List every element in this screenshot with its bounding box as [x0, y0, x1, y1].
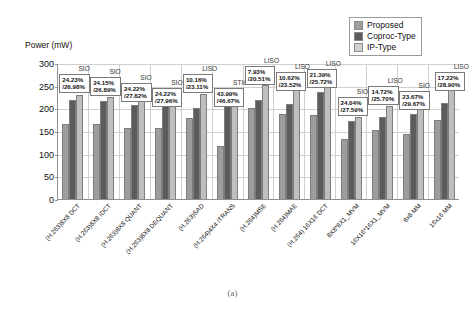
annotation-architecture-type: SIO [78, 65, 89, 72]
annotation-reduction-vs-ip: /26.89% [93, 86, 118, 93]
annotation-callout: 24.23%/26.98% [59, 74, 90, 93]
annotation-reduction-vs-coproc: 21.39% [310, 71, 335, 78]
legend-swatch-ip-type [354, 43, 363, 52]
annotation-architecture-type: LISO [326, 60, 341, 67]
annotation-callout: 14.72%/25.70% [368, 86, 399, 105]
bar-proposed [62, 124, 69, 199]
annotation-reduction-vs-ip: /29.67% [402, 100, 427, 107]
bar-ip-type [355, 117, 362, 199]
annotation-reduction-vs-coproc: 24.22% [155, 90, 180, 97]
bar-coproc-type [348, 121, 355, 199]
bar-ip-type [169, 101, 176, 199]
annotation-reduction-vs-coproc: 24.23% [62, 76, 87, 83]
bar-coproc-type [193, 108, 200, 199]
y-axis-tick-label: 50 [44, 172, 54, 182]
bar-ip-type [293, 89, 300, 199]
annotation-callout: 7.93%/20.51% [245, 66, 276, 85]
bar-ip-type [448, 89, 455, 199]
y-axis-tick-label: 250 [39, 82, 54, 92]
bar-ip-type [231, 102, 238, 199]
annotation-reduction-vs-coproc: 43.99% [217, 90, 242, 97]
annotation-reduction-vs-coproc: 24.15% [93, 79, 118, 86]
annotation-reduction-vs-coproc: 23.67% [402, 93, 427, 100]
legend-swatch-coproc-type [354, 32, 363, 41]
annotation-reduction-vs-ip: /23.11% [186, 83, 211, 90]
annotation-architecture-type: SIO [171, 79, 182, 86]
bar-ip-type [200, 94, 207, 199]
legend-label-proposed: Proposed [367, 21, 403, 30]
annotation-architecture-type: LISO [454, 63, 469, 70]
legend-entry-coproc-type: Coproc-Type [354, 32, 416, 41]
annotation-callout: 17.22%/28.90% [435, 72, 466, 91]
annotation-reduction-vs-ip: /26.98% [62, 83, 87, 90]
y-axis-title: Power (mW) [25, 40, 72, 50]
bar-coproc-type [379, 117, 386, 199]
legend-label-coproc-type: Coproc-Type [367, 32, 416, 41]
figure-caption: (a) [0, 288, 465, 298]
chart-legend: Proposed Coproc-Type IP-Type [349, 17, 422, 56]
bar-ip-type [262, 85, 269, 199]
y-axis-tick-label: 300 [39, 59, 54, 69]
annotation-reduction-vs-coproc: 17.22% [438, 74, 463, 81]
annotation-reduction-vs-ip: /27.82% [124, 92, 149, 99]
y-axis-tick-mark [55, 200, 58, 201]
annotation-architecture-type: SIO [109, 68, 120, 75]
y-axis-tick-label: 100 [39, 150, 54, 160]
annotation-reduction-vs-ip: /25.70% [371, 95, 396, 102]
annotation-reduction-vs-ip: /20.51% [248, 75, 273, 82]
annotation-reduction-vs-coproc: 10.16% [186, 76, 211, 83]
annotation-architecture-type: SIO [419, 82, 430, 89]
annotation-callout: 10.62%/23.52% [276, 72, 307, 91]
annotation-callout: 24.15%/26.89% [90, 77, 121, 96]
bar-ip-type [76, 95, 83, 199]
annotation-callout: 21.39%/25.72% [307, 69, 338, 88]
annotation-reduction-vs-ip: /27.96% [155, 97, 180, 104]
annotation-architecture-type: SIO [357, 88, 368, 95]
y-axis-tick-label: 150 [39, 127, 54, 137]
annotation-reduction-vs-coproc: 7.93% [248, 68, 273, 75]
bar-ip-type [417, 106, 424, 199]
annotation-callout: 24.22%/27.96% [152, 88, 183, 107]
annotation-reduction-vs-ip: /46.67% [217, 97, 242, 104]
annotation-callout: 24.22%/27.82% [121, 83, 152, 102]
annotation-callout: 24.04%/27.59% [338, 97, 369, 116]
bar-ip-type [324, 87, 331, 199]
annotation-reduction-vs-ip: /25.72% [310, 78, 335, 85]
bar-coproc-type [441, 103, 448, 199]
legend-entry-ip-type: IP-Type [354, 43, 416, 52]
bar-coproc-type [410, 114, 417, 199]
annotation-reduction-vs-coproc: 24.22% [124, 85, 149, 92]
annotation-architecture-type: LISO [202, 65, 217, 72]
bar-ip-type [107, 97, 114, 199]
annotation-reduction-vs-ip: /27.59% [341, 106, 366, 113]
y-axis-tick-label: 200 [39, 104, 54, 114]
bar-coproc-type [69, 100, 76, 199]
legend-entry-proposed: Proposed [354, 21, 416, 30]
annotation-architecture-type: SIO [140, 74, 151, 81]
legend-swatch-proposed [354, 21, 363, 30]
annotation-reduction-vs-coproc: 24.04% [341, 99, 366, 106]
annotation-callout: 23.67%/29.67% [399, 91, 430, 110]
annotation-reduction-vs-ip: /28.90% [438, 81, 463, 88]
legend-label-ip-type: IP-Type [367, 43, 396, 52]
annotation-reduction-vs-ip: /23.52% [279, 81, 304, 88]
annotation-architecture-type: LISO [388, 77, 403, 84]
bar-ip-type [138, 100, 145, 199]
annotation-reduction-vs-coproc: 10.62% [279, 74, 304, 81]
annotation-reduction-vs-coproc: 14.72% [371, 88, 396, 95]
annotation-architecture-type: LISO [264, 57, 279, 64]
bar-ip-type [386, 106, 393, 199]
annotation-callout: 10.16%/23.11% [183, 74, 214, 93]
y-axis-tick-label: 0 [49, 195, 54, 205]
annotation-callout: 43.99%/46.67% [214, 88, 245, 107]
